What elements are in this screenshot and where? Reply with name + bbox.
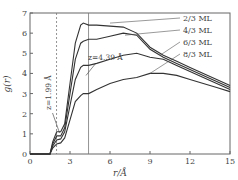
legend-label: 4/3 ML <box>183 26 213 35</box>
legend: 2/3 ML4/3 ML6/3 ML8/3 ML <box>110 14 213 73</box>
y-tick-label: 1 <box>22 130 27 139</box>
legend-arrow <box>110 18 180 23</box>
legend-label: 6/3 ML <box>183 38 213 47</box>
x-tick-label: 12 <box>185 157 195 166</box>
x-tick-label: 9 <box>147 157 152 166</box>
x-tick-label: 3 <box>67 157 72 166</box>
y-tick-label: 5 <box>22 49 27 58</box>
arrow-z1 <box>53 113 60 133</box>
x-tick-label: 0 <box>27 157 32 166</box>
chart-svg: 0369121501234567 z=1.99 Åz=4.39 Å 2/3 ML… <box>0 0 238 180</box>
y-axis-label: g(r) <box>2 75 12 93</box>
y-tick-label: 6 <box>22 29 27 38</box>
y-tick-label: 2 <box>22 110 27 119</box>
curve-6-3-ML <box>30 53 230 154</box>
legend-arrow <box>150 54 180 73</box>
legend-arrow <box>125 30 180 35</box>
legend-label: 8/3 ML <box>183 50 213 59</box>
legend-label: 2/3 ML <box>183 14 213 23</box>
annotation-z1: z=1.99 Å <box>44 75 53 110</box>
y-tick-label: 7 <box>22 9 27 18</box>
y-tick-label: 3 <box>22 90 27 99</box>
curve-8-3-ML <box>30 73 230 154</box>
x-tick-label: 15 <box>225 157 235 166</box>
y-tick-label: 0 <box>22 150 27 159</box>
y-tick-label: 4 <box>22 69 27 78</box>
legend-arrow <box>160 42 180 55</box>
x-axis-label: r/Å <box>113 167 127 178</box>
x-tick-label: 6 <box>107 157 112 166</box>
rdf-chart: 0369121501234567 z=1.99 Åz=4.39 Å 2/3 ML… <box>0 0 238 180</box>
